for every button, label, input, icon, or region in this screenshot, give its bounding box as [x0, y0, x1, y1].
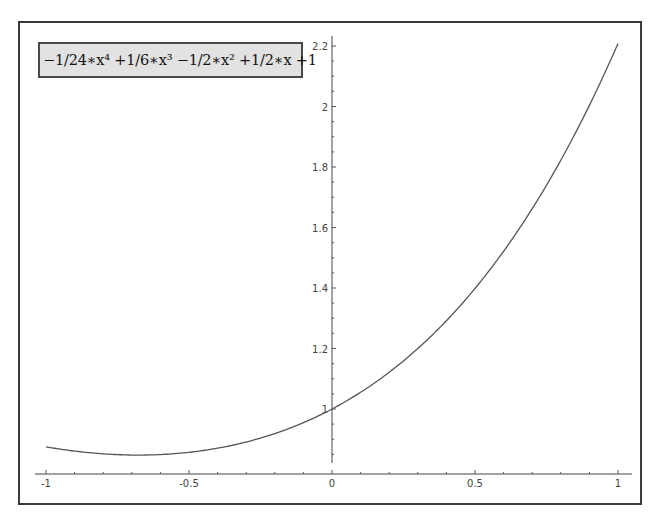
x-tick-label: 0.5 [467, 478, 483, 489]
legend-label: −1/24∗x⁴ +1/6∗x³ −1/2∗x² +1/2∗x +1 [43, 52, 317, 68]
x-tick-label: 1 [615, 478, 621, 489]
y-axis-tick-labels: 11.21.41.61.822.2 [312, 41, 328, 415]
x-tick-label: -0.5 [179, 478, 199, 489]
y-tick-label: 1.6 [312, 223, 328, 234]
x-tick-label: 0 [329, 478, 335, 489]
x-axis-tick-labels: -1-0.500.51 [41, 478, 621, 489]
y-tick-label: 2 [322, 102, 328, 113]
x-tick-label: -1 [41, 478, 51, 489]
y-tick-label: 2.2 [312, 41, 328, 52]
y-tick-label: 1.4 [312, 283, 328, 294]
plot-area: -1-0.500.51 11.21.41.61.822.2 [0, 0, 664, 527]
x-axis-ticks [46, 470, 618, 474]
y-tick-label: 1.8 [312, 162, 328, 173]
y-tick-label: 1.2 [312, 344, 328, 355]
legend-box: −1/24∗x⁴ +1/6∗x³ −1/2∗x² +1/2∗x +1 [38, 42, 303, 78]
y-axis-ticks [332, 46, 336, 454]
